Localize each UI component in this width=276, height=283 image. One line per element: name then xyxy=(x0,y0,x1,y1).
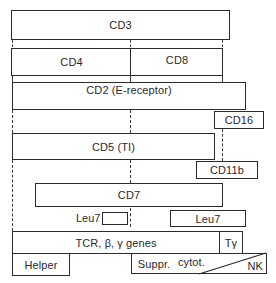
cd16-box: CD16 xyxy=(214,111,264,129)
helper-label: Helper xyxy=(24,259,57,271)
tgamma-box: Tγ xyxy=(219,231,243,254)
cd7-label: CD7 xyxy=(118,189,140,201)
leu7-right-box: Leu7 xyxy=(170,210,246,227)
nk-label: NK xyxy=(248,260,263,272)
guide-dash-cd16-3 xyxy=(222,129,223,161)
tcr-box: TCR, β, γ genes xyxy=(12,231,220,254)
cd2-box: CD2 (E-receptor) xyxy=(12,82,246,110)
guide-dash-left-4 xyxy=(12,160,13,231)
cytotoxic-label: cytot. xyxy=(178,256,205,268)
cytotoxic-nk-box: cytot. NK xyxy=(175,253,267,274)
suppressor-box: Suppr. xyxy=(131,253,176,274)
cd11b-label: CD11b xyxy=(210,164,244,176)
leu7-left-label: Leu7 xyxy=(76,212,100,224)
guide-dash-left-3 xyxy=(12,110,13,133)
helper-box: Helper xyxy=(12,253,70,276)
cd16-label: CD16 xyxy=(225,114,254,126)
leu7-left-box xyxy=(102,212,128,225)
leu7-right-label: Leu7 xyxy=(196,213,221,225)
cd4-cd8-box: CD4 CD8 xyxy=(11,48,223,76)
guide-dash-left-1 xyxy=(12,40,13,47)
cd3-label: CD3 xyxy=(109,19,131,31)
guide-dash-mid-5 xyxy=(130,208,131,227)
cd4-label: CD4 xyxy=(12,56,131,68)
guide-dash-mid-4 xyxy=(130,160,131,183)
cd3-box: CD3 xyxy=(11,10,230,40)
tgamma-label: Tγ xyxy=(225,237,237,249)
cd2-label: CD2 (E-receptor) xyxy=(86,84,171,96)
cd5-box: CD5 (TI) xyxy=(12,133,215,160)
guide-dash-right-1 xyxy=(222,40,223,47)
cd7-box: CD7 xyxy=(35,183,223,207)
cd8-label: CD8 xyxy=(131,54,223,66)
suppressor-label: Suppr. xyxy=(138,258,170,270)
cd4-cd8-divider xyxy=(130,48,131,75)
guide-dash-mid-3 xyxy=(130,110,131,133)
guide-dash-mid-1 xyxy=(130,40,131,47)
cd5-label: CD5 (TI) xyxy=(92,141,135,153)
tcr-label: TCR, β, γ genes xyxy=(75,237,156,249)
cd11b-box: CD11b xyxy=(196,161,258,179)
